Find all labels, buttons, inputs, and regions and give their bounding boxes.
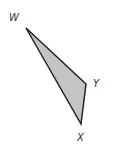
triangle-wyx bbox=[26, 28, 86, 124]
vertex-label-y: Y bbox=[93, 78, 100, 89]
vertex-label-x: X bbox=[76, 132, 85, 143]
vertex-label-w: W bbox=[9, 12, 20, 23]
triangle-diagram: W Y X bbox=[0, 0, 114, 148]
